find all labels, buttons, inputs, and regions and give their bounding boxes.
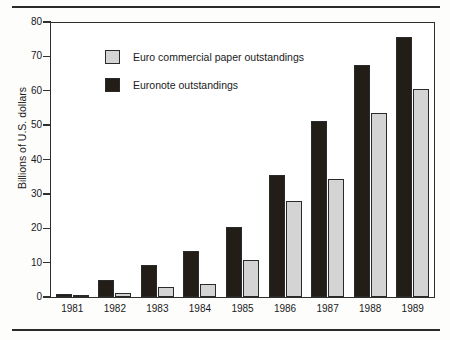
bar-group <box>306 22 349 297</box>
y-axis-label: 80 <box>18 17 42 27</box>
y-axis-tick <box>43 159 51 160</box>
bar-1985-euronote <box>226 227 242 297</box>
y-axis-label: 30 <box>18 189 42 199</box>
bar-1987-euro-commercial-paper <box>328 179 344 297</box>
y-axis-tick <box>43 296 51 297</box>
y-axis-tick <box>43 21 51 22</box>
y-axis-tick <box>43 228 51 229</box>
y-axis-label-wrap: 40 <box>8 155 42 165</box>
legend-swatch-light <box>105 50 120 64</box>
y-axis-label-wrap: 0 <box>8 292 42 302</box>
y-axis-label-wrap: 60 <box>8 86 42 96</box>
bar-group <box>349 22 392 297</box>
y-axis-tick <box>43 90 51 91</box>
bar-1989-euronote <box>396 37 412 297</box>
legend-swatch-dark <box>105 78 120 92</box>
x-axis-label-1989: 1989 <box>391 303 435 314</box>
legend-item-euro-commercial-paper: Euro commercial paper outstandings <box>105 46 304 68</box>
x-axis-label-1983: 1983 <box>135 303 179 314</box>
y-axis-tick <box>43 262 51 263</box>
x-axis-label-1985: 1985 <box>221 303 265 314</box>
y-axis-tick <box>43 193 51 194</box>
bar-group <box>51 22 94 297</box>
bar-1988-euronote <box>354 65 370 297</box>
bottom-rule <box>12 329 440 331</box>
x-axis-label-1984: 1984 <box>178 303 222 314</box>
x-axis-label-1986: 1986 <box>263 303 307 314</box>
y-axis-label-wrap: 10 <box>8 258 42 268</box>
y-axis-label-wrap: 80 <box>8 17 42 27</box>
bar-1983-euronote <box>141 265 157 297</box>
bar-1981-euronote <box>56 294 72 297</box>
bar-1988-euro-commercial-paper <box>371 113 387 297</box>
y-axis-label-wrap: 30 <box>8 189 42 199</box>
y-axis-tick <box>43 124 51 125</box>
bar-1981-euro-commercial-paper <box>73 295 89 297</box>
bar-1982-euronote <box>98 280 114 297</box>
x-axis-label-1981: 1981 <box>50 303 94 314</box>
y-axis-label: 50 <box>18 120 42 130</box>
figure: Billions of U.S. dollars 010203040506070… <box>0 0 450 340</box>
top-rule <box>12 6 440 8</box>
bar-1983-euro-commercial-paper <box>158 287 174 297</box>
y-axis-label: 20 <box>18 223 42 233</box>
legend-label: Euro commercial paper outstandings <box>133 51 304 63</box>
y-axis-label-wrap: 20 <box>8 223 42 233</box>
x-axis-label-1988: 1988 <box>348 303 392 314</box>
bar-group <box>391 22 434 297</box>
bar-1982-euro-commercial-paper <box>115 293 131 297</box>
legend-label: Euronote outstandings <box>133 79 238 91</box>
legend-item-euronote: Euronote outstandings <box>105 74 304 96</box>
bar-1989-euro-commercial-paper <box>413 89 429 297</box>
y-axis-label: 40 <box>18 155 42 165</box>
bar-1984-euro-commercial-paper <box>200 284 216 297</box>
x-axis-label-1982: 1982 <box>93 303 137 314</box>
bar-1987-euronote <box>311 121 327 297</box>
y-axis-label-wrap: 50 <box>8 120 42 130</box>
x-axis-label-1987: 1987 <box>306 303 350 314</box>
bar-1984-euronote <box>183 251 199 297</box>
bar-1986-euronote <box>269 175 285 297</box>
bar-1986-euro-commercial-paper <box>286 201 302 297</box>
y-axis-label: 0 <box>18 292 42 302</box>
y-axis-label: 60 <box>18 86 42 96</box>
chart-legend: Euro commercial paper outstandingsEurono… <box>105 46 304 102</box>
y-axis-label-wrap: 70 <box>8 51 42 61</box>
y-axis-label: 10 <box>18 258 42 268</box>
y-axis-tick <box>43 56 51 57</box>
bar-1985-euro-commercial-paper <box>243 260 259 297</box>
y-axis-label: 70 <box>18 51 42 61</box>
